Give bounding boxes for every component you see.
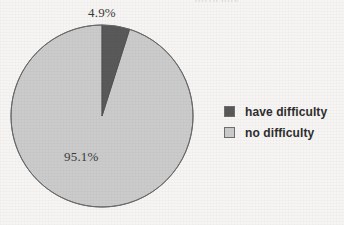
legend-swatch-have-difficulty xyxy=(224,106,235,117)
legend-item-no-difficulty[interactable]: no difficulty xyxy=(224,122,340,143)
legend-label-have-difficulty: have difficulty xyxy=(245,105,327,119)
cropped-caption-remnant: difficulty xyxy=(195,0,281,2)
pie-data-label-no-difficulty: 95.1% xyxy=(64,149,99,165)
legend: have difficulty no difficulty xyxy=(224,101,340,143)
pie-chart-figure: difficulty 4.9% 95.1% have difficulty no… xyxy=(0,0,344,225)
legend-label-no-difficulty: no difficulty xyxy=(245,126,314,140)
pie-data-label-have-difficulty: 4.9% xyxy=(88,5,116,21)
legend-swatch-no-difficulty xyxy=(224,127,235,138)
legend-item-have-difficulty[interactable]: have difficulty xyxy=(224,101,340,122)
